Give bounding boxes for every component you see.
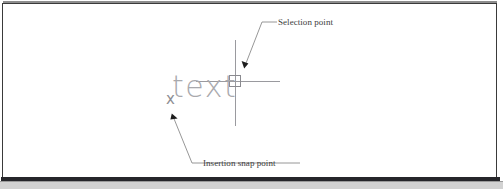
page-bottom-strip [0,181,503,189]
page-bottom-strip-line [0,181,503,182]
insertion-point-marker-icon: x [166,92,175,107]
leader-line-insertion-snap-point [174,118,301,164]
annotation-label-insertion-snap-point: Insertion snap point [203,158,276,168]
arrowhead-insertion-snap-point [170,113,177,119]
leader-line-selection-point [246,22,278,65]
arrowhead-selection-point [242,61,249,69]
cad-text-entity[interactable]: text [172,72,237,102]
annotation-label-selection-point: Selection point [278,17,333,27]
figure-page: text x Selection point Insertion snap po… [0,0,503,189]
